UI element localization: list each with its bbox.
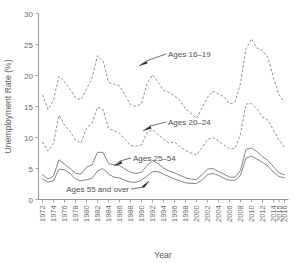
- y-tick-label: 25: [24, 41, 33, 50]
- chart-background: [0, 0, 295, 263]
- x-tick-label: 2004: [214, 206, 223, 222]
- series-label-ages-25-54: Ages 25–54: [133, 154, 176, 163]
- x-tick-label: 1972: [38, 206, 47, 222]
- x-tick-label: 1984: [104, 206, 113, 222]
- x-tick-label: 1992: [148, 206, 157, 222]
- x-tick-label: 1994: [159, 206, 168, 222]
- y-tick-label: 20: [24, 72, 33, 81]
- y-tick-label: 5: [29, 165, 34, 174]
- x-tick-label: 2006: [225, 206, 234, 222]
- x-tick-label: 1988: [126, 206, 135, 222]
- x-tick-label: 1978: [71, 206, 80, 222]
- y-tick-label: 10: [24, 134, 33, 143]
- y-tick-label: 0: [29, 196, 34, 205]
- series-label-ages-20-24: Ages 20–24: [168, 118, 211, 127]
- x-tick-label: 1996: [170, 206, 179, 222]
- x-tick-label: 2010: [247, 206, 256, 222]
- x-tick-label: 1982: [93, 206, 102, 222]
- y-tick-label: 30: [24, 10, 33, 19]
- x-tick-label: 1974: [49, 206, 58, 222]
- x-tick-label: 1986: [115, 206, 124, 222]
- x-tick-label: 2000: [192, 206, 201, 222]
- x-tick-label: 1980: [82, 206, 91, 222]
- series-label-ages-55-over: Ages 55 and over: [66, 185, 129, 194]
- x-tick-label: 2012: [258, 206, 267, 222]
- x-tick-label: 2002: [203, 206, 212, 222]
- x-tick-label: 1990: [137, 206, 146, 222]
- y-tick-label: 15: [24, 103, 33, 112]
- x-tick-label: 2008: [236, 206, 245, 222]
- unemployment-rate-chart: 30 25 20 15 10 5 0 Unemployment Rate (%)…: [0, 0, 295, 263]
- x-axis-title: Year: [154, 250, 172, 260]
- x-tick-label: 2016: [280, 206, 289, 222]
- x-tick-label: 1998: [181, 206, 190, 222]
- y-axis-title: Unemployment Rate (%): [3, 59, 13, 153]
- chart-canvas: 30 25 20 15 10 5 0 Unemployment Rate (%)…: [0, 0, 295, 263]
- x-tick-label: 1976: [60, 206, 69, 222]
- series-label-ages-16-19: Ages 16–19: [168, 50, 211, 59]
